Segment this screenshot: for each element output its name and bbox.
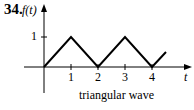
triangular-wave-plot bbox=[0, 0, 194, 110]
wave-line bbox=[44, 37, 166, 67]
y-arrow-icon bbox=[41, 4, 47, 12]
x-arrow-icon bbox=[184, 64, 192, 70]
